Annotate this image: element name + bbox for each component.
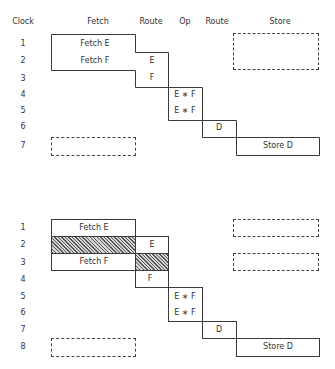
bottom-store-empty-slot-1: [233, 219, 319, 237]
bottom-fetch-empty-slot: [51, 338, 136, 357]
bottom-clock-6: 6: [20, 308, 25, 318]
top-fetch-empty-slot: [51, 137, 136, 156]
bottom-clock-5: 5: [20, 292, 25, 302]
top-route-e: E: [149, 56, 154, 66]
top-op-1: E ∗ F: [174, 90, 195, 100]
bottom-clock-8: 8: [20, 342, 25, 352]
bottom-clock-3: 3: [20, 258, 25, 268]
bottom-fetch-stall-hatch: [51, 236, 136, 254]
bottom-clock-4: 4: [20, 275, 25, 285]
bottom-op-2: E ∗ F: [174, 308, 195, 318]
bottom-fetch-f: Fetch F: [80, 257, 109, 267]
bottom-op-1: E ∗ F: [174, 292, 195, 302]
top-fetch-e: Fetch E: [80, 39, 109, 49]
bottom-clock-1: 1: [20, 223, 25, 233]
top-fetch-f: Fetch F: [81, 56, 110, 66]
top-route-f: F: [150, 73, 155, 83]
bottom-clock-7: 7: [20, 325, 25, 335]
bottom-clock-2: 2: [20, 240, 25, 250]
top-route-d: D: [216, 123, 222, 133]
top-store-d: Store D: [263, 141, 293, 151]
bottom-fetch-e: Fetch E: [79, 223, 108, 233]
bottom-route-stall-hatch: [135, 253, 169, 271]
bottom-route-f: F: [148, 274, 153, 284]
bottom-route-e: E: [149, 240, 154, 250]
bottom-store-empty-slot-2: [233, 253, 319, 271]
bottom-store-d: Store D: [263, 342, 293, 352]
bottom-route-d: D: [216, 325, 222, 335]
top-op-2: E ∗ F: [174, 106, 195, 116]
